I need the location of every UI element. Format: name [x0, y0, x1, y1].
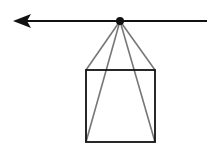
- connector-bottom-right: [120, 21, 155, 142]
- connector-top-left: [86, 21, 120, 70]
- diagram-canvas: [0, 0, 207, 148]
- apex-point: [116, 17, 124, 25]
- connector-bottom-left: [86, 21, 120, 142]
- connector-top-right: [120, 21, 155, 70]
- connector-lines: [86, 21, 155, 142]
